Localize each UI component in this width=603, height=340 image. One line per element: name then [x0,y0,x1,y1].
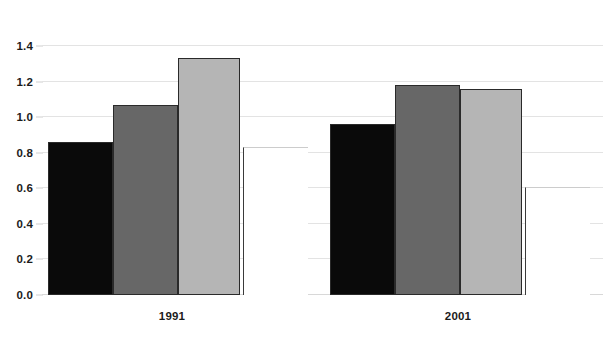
bar-2001-series-3 [460,89,522,295]
y-tick-label: 0.0 [0,289,33,301]
y-tick-label: 1.0 [0,111,33,123]
y-tick-label: 0.4 [0,218,33,230]
bar-2001-series-2 [395,85,460,295]
bar-chart: 0.00.20.40.60.81.01.21.4 19912001 [0,0,603,340]
bar-2001-series-1 [330,124,395,295]
bar-1991-series-3 [178,58,240,295]
y-tick-label: 0.2 [0,253,33,265]
bar-1991-series-4 [243,147,308,295]
bar-2001-series-4 [525,187,590,295]
x-group-label-1991: 1991 [159,310,185,322]
x-group-label-2001: 2001 [445,310,471,322]
bar-1991-series-1 [48,142,113,295]
y-tick-label: 1.4 [0,40,33,52]
bar-1991-series-2 [113,105,178,295]
y-tick-label: 1.2 [0,76,33,88]
plot-area [42,46,603,295]
y-tick-label: 0.8 [0,147,33,159]
y-tick-label: 0.6 [0,182,33,194]
gridline-1.4 [42,45,603,46]
gridline-1.2 [42,81,603,82]
